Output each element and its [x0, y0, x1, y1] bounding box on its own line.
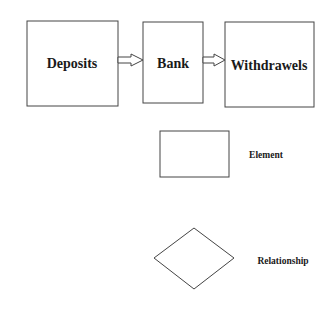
withdrawels-label: Withdrawels — [231, 58, 308, 74]
arrow-deposits-to-bank — [118, 54, 143, 66]
bank-label: Bank — [157, 56, 189, 72]
diagram-canvas — [0, 0, 325, 333]
legend-relationship-diamond — [154, 228, 234, 289]
arrow-bank-to-withdrawels — [203, 54, 225, 66]
legend-element-rect — [160, 131, 229, 177]
deposits-label: Deposits — [47, 56, 98, 72]
legend-relationship-label: Relationship — [257, 256, 308, 266]
legend-element-label: Element — [249, 150, 283, 160]
